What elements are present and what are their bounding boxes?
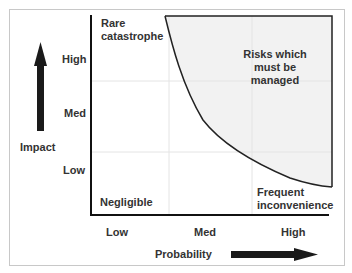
frequent-line-1: Frequent	[257, 186, 333, 199]
x-tick-high: High	[281, 226, 305, 239]
annotation-risks-managed: Risks which must be managed	[235, 48, 315, 87]
annotation-frequent-inconvenience: Frequent inconvenience	[257, 186, 333, 212]
rare-line-2: catastrophe	[101, 30, 163, 43]
rare-line-1: Rare	[101, 17, 163, 30]
x-tick-med: Med	[194, 226, 216, 239]
y-tick-med: Med	[64, 107, 86, 120]
risks-line-3: managed	[235, 74, 315, 87]
right-arrow-icon	[231, 248, 318, 261]
risks-line-1: Risks which	[235, 48, 315, 61]
managed-risk-region	[165, 16, 332, 187]
y-tick-high: High	[62, 53, 86, 66]
frequent-line-2: inconvenience	[257, 199, 333, 212]
risks-line-2: must be	[235, 61, 315, 74]
y-tick-low: Low	[63, 164, 85, 177]
x-tick-low: Low	[106, 226, 128, 239]
annotation-rare-catastrophe: Rare catastrophe	[101, 17, 163, 43]
annotation-negligible: Negligible	[100, 196, 153, 209]
x-axis-label: Probability	[155, 248, 212, 261]
up-arrow-icon	[34, 42, 47, 131]
y-axis-label: Impact	[20, 141, 55, 154]
